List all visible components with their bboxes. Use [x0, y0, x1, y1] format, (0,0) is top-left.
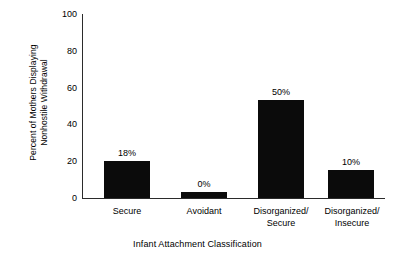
y-tick-label-80: 80: [67, 46, 77, 56]
y-tick-label-0: 0: [72, 193, 77, 203]
y-axis-title: Percent of Mothers Displaying Nonhostile…: [28, 3, 49, 203]
x-category-label-secure: Secure: [113, 206, 142, 218]
bar-disorganized-secure: [258, 100, 304, 198]
y-axis-title-line-2: Nonhostile Withdrawal: [38, 3, 49, 203]
x-category-label-disorganized-secure-line-2: Secure: [253, 218, 308, 230]
x-category-label-disorganized-secure-line-1: Disorganized/: [253, 206, 308, 218]
bar-value-label-secure: 18%: [118, 148, 136, 158]
y-tick-label-20: 20: [67, 156, 77, 166]
bar-avoidant: [181, 192, 227, 198]
plot-area: 0 20 40 60 80 100 18% 0% 50% 10% Secure …: [82, 14, 385, 198]
y-axis-line: [82, 14, 83, 199]
bar-chart-figure: Percent of Mothers Displaying Nonhostile…: [0, 0, 395, 261]
y-tick-label-100: 100: [62, 9, 77, 19]
x-category-label-disorganized-insecure-line-1: Disorganized/: [324, 206, 379, 218]
bar-value-label-disorganized-insecure: 10%: [342, 157, 360, 167]
x-category-label-disorganized-insecure: Disorganized/ Insecure: [324, 206, 379, 229]
bar-disorganized-insecure: [328, 170, 374, 198]
bar-secure: [104, 161, 150, 198]
x-category-label-disorganized-secure: Disorganized/ Secure: [253, 206, 308, 229]
x-axis-title: Infant Attachment Classification: [0, 239, 395, 249]
bar-value-label-avoidant: 0%: [197, 179, 210, 189]
y-tick-label-60: 60: [67, 83, 77, 93]
y-tick-label-40: 40: [67, 119, 77, 129]
x-category-label-avoidant-line-1: Avoidant: [187, 206, 222, 218]
x-category-label-avoidant: Avoidant: [187, 206, 222, 218]
x-axis-line: [82, 198, 385, 199]
x-category-label-disorganized-insecure-line-2: Insecure: [324, 218, 379, 230]
bar-value-label-disorganized-secure: 50%: [272, 87, 290, 97]
x-category-label-secure-line-1: Secure: [113, 206, 142, 218]
y-axis-title-line-1: Percent of Mothers Displaying: [28, 3, 39, 203]
